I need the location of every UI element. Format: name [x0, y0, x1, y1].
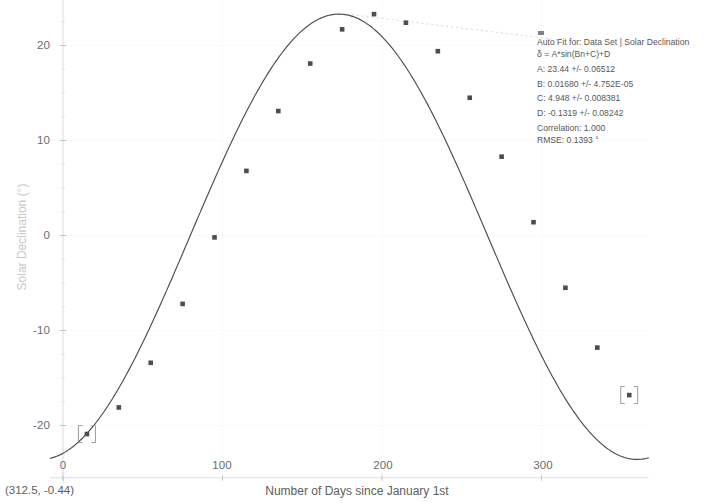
- chart-application: 20 10 0 -10 -20 0 100 200 300 Number of …: [0, 0, 714, 504]
- fit-param-c: C: 4.948 +/- 0.008381: [537, 92, 713, 104]
- fit-annotation-box[interactable]: Auto Fit for: Data Set | Solar Declinati…: [537, 31, 713, 146]
- fit-param-b: B: 0.01680 +/- 4.752E-05: [537, 78, 713, 90]
- axis-ticks: [60, 0, 542, 481]
- y-tick-label-20: 20: [10, 39, 50, 51]
- x-tick-label-0: 0: [41, 459, 85, 471]
- fit-correlation: Correlation: 1.000: [537, 122, 713, 134]
- x-tick-label-100: 100: [200, 459, 244, 471]
- fit-param-d: D: -0.1319 +/- 0.08242: [537, 107, 713, 119]
- annotation-leader-line: [347, 14, 560, 40]
- fit-equation: δ = A*sin(Bn+C)+D: [537, 48, 713, 60]
- fit-param-a: A: 23.44 +/- 0.06512: [537, 63, 713, 75]
- series-swatch-icon: [538, 31, 544, 35]
- fit-rmse: RMSE: 0.1393 °: [537, 134, 713, 146]
- selection-brackets: [78, 387, 637, 443]
- x-tick-label-300: 300: [521, 459, 565, 471]
- y-tick-label-neg20: -20: [10, 419, 50, 431]
- y-axis-title: Solar Declination (°): [15, 137, 29, 337]
- coordinate-readout: (312.5, -0.44): [5, 484, 74, 496]
- x-tick-label-200: 200: [361, 459, 405, 471]
- fit-title: Auto Fit for: Data Set | Solar Declinati…: [537, 36, 713, 48]
- x-axis-title: Number of Days since January 1st: [0, 484, 714, 498]
